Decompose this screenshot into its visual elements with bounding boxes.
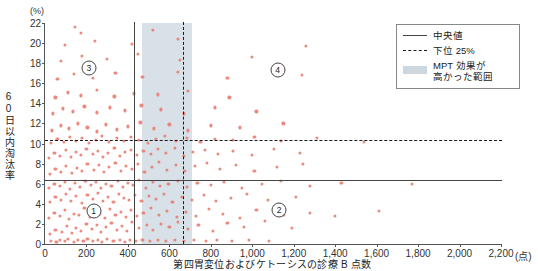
y-axis-title: 60日以内淘汰率 — [3, 91, 13, 181]
data-point — [80, 229, 83, 232]
data-point — [91, 197, 94, 200]
data-point — [65, 224, 68, 227]
data-point — [68, 187, 71, 190]
data-point — [298, 151, 301, 154]
data-point — [107, 195, 110, 198]
data-point — [309, 211, 312, 214]
data-point — [226, 77, 229, 80]
data-point — [253, 169, 256, 172]
data-point — [80, 153, 83, 156]
figure-title-clipped — [0, 0, 538, 7]
data-point — [228, 96, 231, 99]
data-point — [66, 91, 69, 94]
data-point — [60, 230, 63, 233]
data-point — [242, 225, 245, 228]
data-point — [115, 228, 118, 231]
data-point — [112, 239, 115, 242]
x-axis-tick-mark — [335, 244, 336, 247]
data-point — [276, 165, 279, 168]
data-point — [95, 223, 98, 226]
x-axis-tick-mark — [211, 244, 212, 247]
legend-key-dashed-line — [403, 45, 427, 51]
y-axis-tick-mark — [42, 83, 45, 84]
data-point — [74, 226, 77, 229]
data-point — [69, 199, 72, 202]
data-point — [56, 78, 59, 81]
data-point — [49, 200, 52, 203]
legend: 中央値 下位 25% MPT 効果が 高かった範囲 — [396, 24, 520, 89]
data-point — [58, 214, 61, 217]
data-point — [86, 237, 89, 240]
data-point — [107, 151, 110, 154]
data-point — [238, 126, 241, 129]
data-point — [115, 128, 118, 131]
data-point — [67, 127, 70, 130]
data-point — [73, 25, 76, 28]
y-axis-unit: (%) — [30, 6, 44, 16]
data-point — [49, 232, 52, 235]
data-point — [80, 31, 83, 34]
data-point — [192, 150, 195, 153]
data-point — [96, 238, 99, 241]
data-point — [105, 182, 108, 185]
data-point — [215, 238, 218, 241]
data-point — [251, 153, 254, 156]
data-point — [95, 111, 98, 114]
y-axis-tick-mark — [42, 43, 45, 44]
data-point — [53, 182, 56, 185]
x-axis-unit: (点) — [515, 248, 532, 263]
data-point — [377, 209, 380, 212]
y-axis-tick-mark — [42, 23, 45, 24]
data-point — [290, 226, 293, 229]
data-point — [234, 163, 237, 166]
data-point — [100, 240, 103, 243]
y-axis-tick-mark — [42, 224, 45, 225]
data-point — [137, 53, 140, 56]
data-point — [101, 155, 104, 158]
data-point — [87, 141, 90, 144]
data-point — [113, 146, 116, 149]
data-point — [102, 170, 105, 173]
data-point — [122, 196, 125, 199]
data-point — [59, 60, 62, 63]
data-point — [66, 237, 69, 240]
data-point — [216, 152, 219, 155]
reference-line-median-horizontal — [45, 180, 502, 181]
data-point — [213, 106, 216, 109]
data-point — [196, 181, 199, 184]
y-axis-tick-label: 4 — [35, 198, 41, 209]
data-point — [48, 156, 51, 159]
data-point — [110, 184, 113, 187]
data-point — [120, 224, 123, 227]
x-axis-tick-mark — [294, 244, 295, 247]
reference-line-median-vertical — [134, 22, 135, 244]
data-point — [125, 229, 128, 232]
data-point — [238, 216, 241, 219]
data-point — [263, 219, 266, 222]
data-point — [81, 201, 84, 204]
data-point — [70, 231, 73, 234]
data-point — [305, 45, 308, 48]
x-axis-tick-mark — [86, 244, 87, 247]
data-point — [86, 126, 89, 129]
data-point — [282, 122, 285, 125]
data-point — [209, 183, 212, 186]
data-point — [63, 44, 66, 47]
data-point — [127, 198, 130, 201]
data-point — [194, 164, 197, 167]
data-point — [63, 208, 66, 211]
data-point — [86, 193, 89, 196]
data-point — [93, 39, 96, 42]
data-point — [101, 199, 104, 202]
data-point — [54, 167, 57, 170]
data-point — [231, 149, 234, 152]
y-axis-tick-label: 18 — [30, 58, 41, 69]
data-point — [110, 221, 113, 224]
y-axis-tick-mark — [42, 204, 45, 205]
y-axis-tick-label: 16 — [30, 78, 41, 89]
data-point — [129, 208, 132, 211]
legend-label-lower25: 下位 25% — [433, 45, 475, 56]
data-point — [99, 186, 102, 189]
data-point — [204, 239, 207, 242]
data-point — [79, 185, 82, 188]
